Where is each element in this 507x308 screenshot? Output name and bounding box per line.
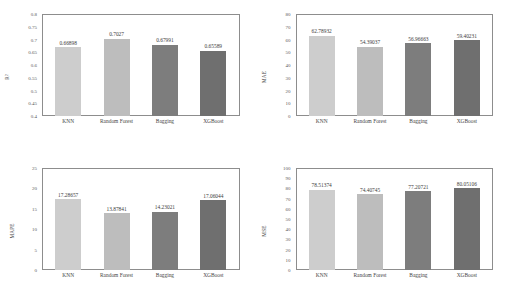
x-axis-categories-mae: KNNRandom ForestBaggingXGBoost <box>296 118 494 130</box>
bar-slot: 17.28657 <box>47 168 90 270</box>
bar[interactable]: 17.28657 <box>55 199 81 270</box>
bar-slot: 77.20721 <box>397 168 440 270</box>
x-axis-category-label: XGBoost <box>192 118 235 130</box>
bar-series-r2: 0.668980.70270.679910.65589 <box>42 14 240 116</box>
y-axis-tick-label: 20 <box>286 247 291 252</box>
x-axis-category-label: XGBoost <box>192 272 235 284</box>
y-axis-tick-label: 0.45 <box>28 101 37 106</box>
y-axis-tick-label: 0.7 <box>31 37 37 42</box>
bar-slot: 78.51374 <box>300 168 343 270</box>
bar[interactable]: 62.78932 <box>309 36 335 116</box>
y-axis-tick-label: 5 <box>35 247 38 252</box>
bar-value-label: 0.65589 <box>205 43 223 49</box>
x-axis-category-label: Random Forest <box>95 118 138 130</box>
bar[interactable]: 77.20721 <box>405 191 431 270</box>
chart-panel-mse: MSE 0102030405060708090100 78.5137474.40… <box>254 154 507 308</box>
bar-value-label: 78.51374 <box>312 182 332 188</box>
y-axis-tick-label: 0.8 <box>31 12 37 17</box>
bar[interactable]: 78.51374 <box>309 190 335 270</box>
plot-area-mape: MAPE 0510152025 17.2865713.8784114.23021… <box>0 154 254 308</box>
x-axis-categories-mape: KNNRandom ForestBaggingXGBoost <box>42 272 240 284</box>
bar[interactable]: 0.65589 <box>200 51 226 116</box>
y-axis-ticks-r2: 0.40.450.50.550.60.650.70.750.8 <box>12 14 40 116</box>
bar[interactable]: 17.06044 <box>200 200 226 270</box>
y-axis-title-r2: R² <box>4 74 10 79</box>
x-axis-category-label: Random Forest <box>349 118 392 130</box>
y-axis-tick-label: 0 <box>288 268 291 273</box>
y-axis-ticks-mape: 0510152025 <box>12 168 40 270</box>
bar[interactable]: 59.40231 <box>454 40 480 116</box>
bar-value-label: 74.40745 <box>360 187 380 193</box>
chart-panel-mae: MAE 01020304050607080 62.7893254.3903756… <box>254 0 507 154</box>
x-axis-category-label: Random Forest <box>95 272 138 284</box>
x-axis-category-label: KNN <box>300 272 343 284</box>
bar-value-label: 14.23021 <box>155 204 175 210</box>
bar[interactable]: 54.39037 <box>357 47 383 116</box>
bar-slot: 56.96663 <box>397 14 440 116</box>
bar-slot: 74.40745 <box>349 168 392 270</box>
y-axis-tick-label: 20 <box>32 186 37 191</box>
y-axis-tick-label: 10 <box>286 101 291 106</box>
x-axis-category-label: Bagging <box>144 272 187 284</box>
bar-value-label: 62.78932 <box>312 28 332 34</box>
bar-value-label: 77.20721 <box>408 184 428 190</box>
chart-grid: R² 0.40.450.50.550.60.650.70.750.8 0.668… <box>0 0 507 308</box>
bar[interactable]: 56.96663 <box>405 43 431 116</box>
y-axis-tick-label: 80 <box>286 12 291 17</box>
x-axis-category-label: Random Forest <box>349 272 392 284</box>
x-axis-category-label: KNN <box>47 118 90 130</box>
bar-series-mae: 62.7893254.3903756.9666359.40231 <box>296 14 494 116</box>
bar[interactable]: 0.67991 <box>152 45 178 116</box>
bar[interactable]: 80.05106 <box>454 188 480 270</box>
x-axis-categories-r2: KNNRandom ForestBaggingXGBoost <box>42 118 240 130</box>
y-axis-tick-label: 0.5 <box>31 88 37 93</box>
y-axis-tick-label: 10 <box>286 257 291 262</box>
bar-series-mape: 17.2865713.8784114.2302117.06044 <box>42 168 240 270</box>
y-axis-tick-label: 30 <box>286 75 291 80</box>
x-axis-category-label: KNN <box>47 272 90 284</box>
y-axis-tick-label: 0.6 <box>31 63 37 68</box>
bar-series-mse: 78.5137474.4074577.2072180.05106 <box>296 168 494 270</box>
x-axis-category-label: Bagging <box>397 272 440 284</box>
bar-value-label: 80.05106 <box>457 181 477 187</box>
plot-area-r2: R² 0.40.450.50.550.60.650.70.750.8 0.668… <box>0 0 254 154</box>
y-axis-tick-label: 80 <box>286 186 291 191</box>
bar[interactable]: 74.40745 <box>357 194 383 270</box>
x-axis-category-label: Bagging <box>144 118 187 130</box>
plot-area-mse: MSE 0102030405060708090100 78.5137474.40… <box>254 154 507 308</box>
bar-value-label: 0.66898 <box>59 40 77 46</box>
y-axis-tick-label: 0.4 <box>31 114 37 119</box>
y-axis-tick-label: 25 <box>32 166 37 171</box>
y-axis-tick-label: 60 <box>286 37 291 42</box>
bar-slot: 14.23021 <box>144 168 187 270</box>
y-axis-tick-label: 20 <box>286 88 291 93</box>
x-axis-category-label: Bagging <box>397 118 440 130</box>
y-axis-tick-label: 70 <box>286 24 291 29</box>
bar[interactable]: 0.7027 <box>104 39 130 116</box>
bar[interactable]: 0.66898 <box>55 47 81 116</box>
y-axis-tick-label: 90 <box>286 176 291 181</box>
bar-slot: 0.7027 <box>95 14 138 116</box>
bar-slot: 13.87841 <box>95 168 138 270</box>
bar-slot: 0.67991 <box>144 14 187 116</box>
y-axis-tick-label: 0 <box>35 268 38 273</box>
y-axis-tick-label: 0.65 <box>28 50 37 55</box>
bar-slot: 54.39037 <box>349 14 392 116</box>
y-axis-tick-label: 100 <box>283 166 291 171</box>
bar[interactable]: 13.87841 <box>104 213 130 270</box>
chart-panel-mape: MAPE 0510152025 17.2865713.8784114.23021… <box>0 154 254 308</box>
bar[interactable]: 14.23021 <box>152 212 178 270</box>
x-axis-category-label: XGBoost <box>446 272 489 284</box>
y-axis-tick-label: 10 <box>32 227 37 232</box>
y-axis-tick-label: 50 <box>286 217 291 222</box>
y-axis-tick-label: 0 <box>288 114 291 119</box>
x-axis-category-label: XGBoost <box>446 118 489 130</box>
bar-slot: 80.05106 <box>446 168 489 270</box>
x-axis-category-label: KNN <box>300 118 343 130</box>
plot-area-mae: MAE 01020304050607080 62.7893254.3903756… <box>254 0 507 154</box>
y-axis-tick-label: 0.75 <box>28 24 37 29</box>
bar-slot: 0.65589 <box>192 14 235 116</box>
y-axis-tick-label: 50 <box>286 50 291 55</box>
y-axis-tick-label: 70 <box>286 196 291 201</box>
y-axis-tick-label: 40 <box>286 63 291 68</box>
